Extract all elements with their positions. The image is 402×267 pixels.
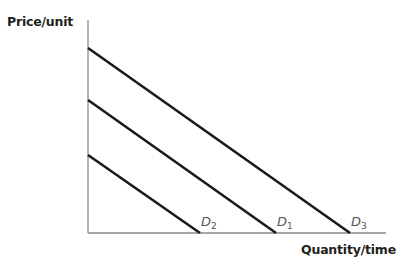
demand-chart: Price/unit Quantity/time D2 D1 D3 xyxy=(0,0,402,267)
curve-label-d3-sub: 3 xyxy=(361,221,367,231)
demand-curve-d1 xyxy=(88,100,276,233)
curve-label-d3-main: D xyxy=(351,214,361,229)
curve-label-d1-sub: 1 xyxy=(287,221,293,231)
curve-label-d2-main: D xyxy=(201,214,211,229)
curve-label-d2: D2 xyxy=(201,214,217,231)
curve-label-d1-main: D xyxy=(277,214,287,229)
curve-label-d2-sub: 2 xyxy=(211,221,217,231)
curve-label-d1: D1 xyxy=(277,214,293,231)
y-axis-label: Price/unit xyxy=(7,14,73,29)
curve-label-d3: D3 xyxy=(351,214,367,231)
x-axis-label: Quantity/time xyxy=(301,242,396,257)
demand-curve-d3 xyxy=(88,48,350,233)
